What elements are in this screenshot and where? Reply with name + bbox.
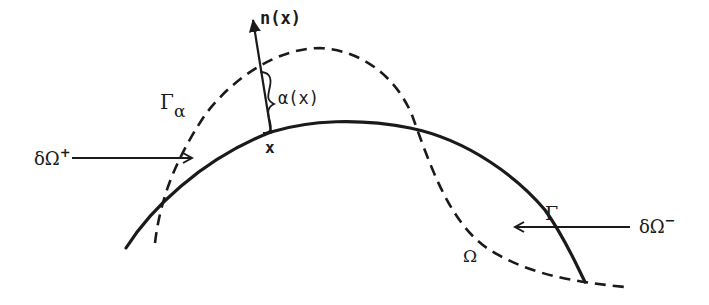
gamma-label: Γ: [545, 204, 558, 223]
delta-omega-minus-main: δΩ: [639, 216, 665, 237]
omega-label: Ω: [463, 248, 477, 265]
point-x-marker: [269, 130, 273, 134]
point-x-label: x: [265, 140, 275, 156]
delta-omega-plus-sup: +: [60, 145, 71, 160]
gamma-alpha-main: Γ: [160, 90, 174, 114]
delta-omega-plus-label: δΩ+: [34, 150, 71, 168]
delta-omega-minus-label: δΩ−: [639, 218, 676, 236]
gamma-alpha-label: Γα: [160, 92, 185, 112]
diagram-canvas: n(x) α(x) x Γα δΩ+ Γ δΩ− Ω: [0, 0, 709, 305]
perturbed-boundary-dashed-curve: [155, 48, 625, 287]
delta-omega-minus-sup: −: [665, 213, 676, 228]
diagram-svg: [0, 0, 709, 305]
alpha-label: α(x): [278, 90, 319, 107]
delta-omega-plus-main: δΩ: [34, 148, 60, 169]
boundary-gamma-curve: [126, 122, 585, 282]
normal-label: n(x): [260, 10, 301, 27]
gamma-alpha-subscript: α: [174, 101, 185, 121]
